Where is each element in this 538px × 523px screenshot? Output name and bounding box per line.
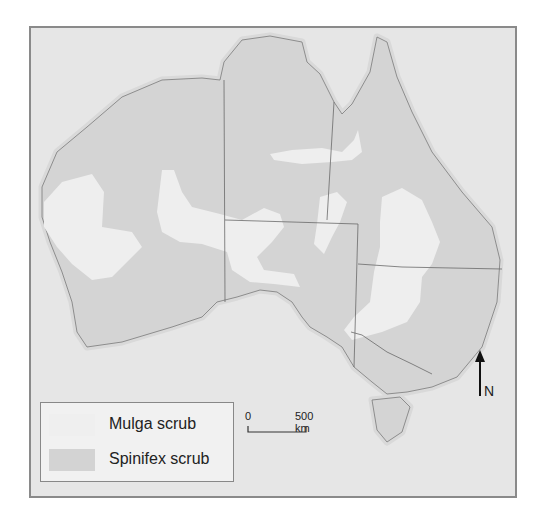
mulga-swatch [49, 414, 95, 436]
map-legend: Mulga scrub Spinifex scrub [40, 402, 234, 482]
north-label: N [484, 383, 494, 399]
spinifex-swatch [49, 449, 95, 471]
north-arrow: N [474, 350, 494, 404]
legend-label-mulga: Mulga scrub [109, 415, 196, 433]
scale-line [245, 410, 315, 440]
map-frame: Mulga scrub Spinifex scrub 0 500 km N [29, 26, 517, 498]
legend-label-spinifex: Spinifex scrub [109, 450, 210, 468]
